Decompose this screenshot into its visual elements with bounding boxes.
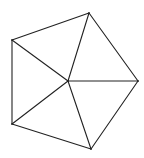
edge-O-A — [12, 40, 68, 81]
edge-C-D — [91, 81, 138, 149]
vertex-D — [90, 148, 92, 150]
edge-A-B — [12, 13, 89, 40]
edge-B-C — [89, 13, 138, 81]
vertex-C — [137, 80, 139, 82]
edge-O-E — [12, 81, 68, 124]
edge-O-B — [68, 13, 89, 81]
vertex-B — [88, 12, 90, 14]
vertex-E — [11, 123, 13, 125]
pentagon-diagram — [0, 0, 144, 158]
vertex-A — [11, 39, 13, 41]
vertex-O — [67, 80, 69, 82]
edge-O-D — [68, 81, 91, 149]
edge-D-E — [12, 124, 91, 149]
